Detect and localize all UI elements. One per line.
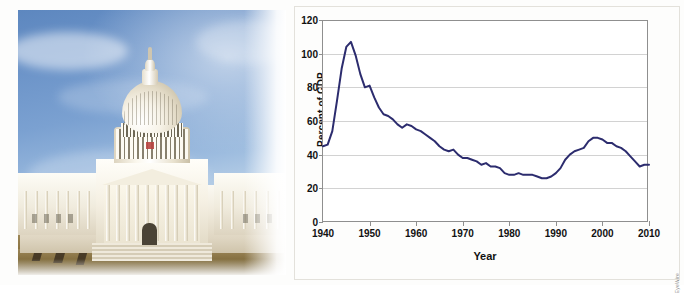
photo-credit: EyeWire	[674, 273, 680, 293]
plot-area: 020406080100120 194019501960197019801990…	[322, 20, 648, 222]
y-tick-label: 0	[312, 217, 318, 228]
dome-tholus	[142, 69, 158, 85]
x-tick-label: 1940	[312, 228, 334, 239]
dome-lantern	[145, 59, 155, 71]
x-tick-label: 1950	[358, 228, 380, 239]
x-tick-label: 2000	[591, 228, 613, 239]
capitol-entrance	[142, 223, 157, 245]
capitol-photo	[18, 10, 286, 275]
y-tick-label: 20	[307, 183, 318, 194]
x-tick-label: 1960	[405, 228, 427, 239]
photo-right-fade	[244, 10, 286, 275]
x-tick-label: 2010	[638, 228, 660, 239]
y-tick-mark	[319, 222, 323, 223]
x-tick-label: 1980	[498, 228, 520, 239]
y-tick-label: 40	[307, 149, 318, 160]
statue-of-freedom	[148, 47, 152, 60]
photo-bottom-fade	[18, 259, 286, 275]
debt-to-gdp-line	[323, 20, 649, 222]
senate-wing-columns	[24, 191, 90, 229]
x-tick-label: 1970	[452, 228, 474, 239]
x-tick-mark	[649, 221, 650, 226]
flag	[146, 142, 154, 149]
y-tick-label: 80	[307, 82, 318, 93]
y-tick-label: 120	[301, 15, 318, 26]
x-axis-label: Year	[322, 250, 648, 262]
x-tick-label: 1990	[545, 228, 567, 239]
chart-panel: Percent of GDP 020406080100120 194019501…	[286, 0, 684, 285]
y-tick-label: 60	[307, 116, 318, 127]
y-tick-label: 100	[301, 48, 318, 59]
